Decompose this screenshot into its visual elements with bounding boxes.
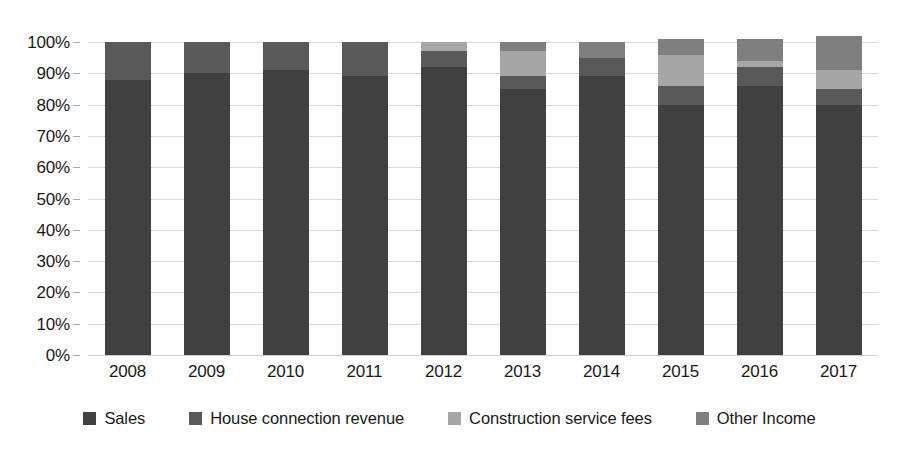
legend-swatch-icon [696,412,709,425]
bar-segment[interactable] [342,76,388,355]
x-axis-label: 2014 [562,362,641,392]
bar-slot [88,42,167,355]
stacked-bar[interactable] [184,42,230,355]
legend-label: Sales [104,409,145,428]
bar-slot [404,42,483,355]
bar-segment[interactable] [500,51,546,76]
bar-segment[interactable] [737,39,783,61]
stacked-bar[interactable] [816,36,862,355]
bar-group [88,42,878,355]
x-axis-label: 2015 [641,362,720,392]
bar-segment[interactable] [342,42,388,76]
bar-segment[interactable] [421,42,467,51]
y-axis-label: 20% [37,284,70,301]
legend-swatch-icon [448,412,461,425]
gridline [88,355,878,356]
bar-segment[interactable] [421,67,467,355]
stacked-bar[interactable] [105,42,151,355]
bar-segment[interactable] [184,73,230,355]
y-axis-label: 30% [37,253,70,270]
x-axis-label: 2012 [404,362,483,392]
bar-segment[interactable] [500,76,546,89]
plot-area [88,42,878,355]
y-axis-tick [73,261,80,262]
bar-segment[interactable] [658,39,704,55]
bar-slot [483,42,562,355]
bar-segment[interactable] [816,105,862,355]
bar-segment[interactable] [184,42,230,73]
bar-segment[interactable] [500,42,546,51]
bar-segment[interactable] [105,42,151,80]
y-axis-tick [73,355,80,356]
stacked-bar-chart: 0%10%20%30%40%50%60%70%80%90%100% 200820… [0,0,899,459]
x-axis-label: 2016 [720,362,799,392]
stacked-bar[interactable] [500,42,546,355]
bar-segment[interactable] [500,89,546,355]
x-axis-label: 2013 [483,362,562,392]
bar-slot [167,42,246,355]
y-axis-tick [73,167,80,168]
bar-segment[interactable] [816,36,862,70]
bar-segment[interactable] [263,70,309,355]
y-axis-label: 80% [37,96,70,113]
bar-slot [799,42,878,355]
y-axis-tick [73,230,80,231]
y-axis-tick [73,73,80,74]
y-axis-tick [73,136,80,137]
stacked-bar[interactable] [737,39,783,355]
y-axis-label: 70% [37,127,70,144]
bar-segment[interactable] [658,105,704,355]
bar-slot [720,42,799,355]
y-axis-tick [73,105,80,106]
bar-segment[interactable] [658,86,704,105]
bar-slot [325,42,404,355]
legend-label: Other Income [717,409,816,428]
legend-label: Construction service fees [469,409,652,428]
x-axis: 2008200920102011201220132014201520162017 [88,362,878,392]
legend-swatch-icon [83,412,96,425]
bar-segment[interactable] [737,86,783,355]
y-axis-tick [73,324,80,325]
y-axis-tick [73,292,80,293]
bar-slot [641,42,720,355]
legend-item[interactable]: Construction service fees [448,409,652,428]
y-axis: 0%10%20%30%40%50%60%70%80%90%100% [0,42,80,355]
y-axis-label: 40% [37,221,70,238]
legend-swatch-icon [189,412,202,425]
legend-item[interactable]: Sales [83,409,145,428]
stacked-bar[interactable] [263,42,309,355]
legend-label: House connection revenue [210,409,404,428]
bar-segment[interactable] [658,55,704,86]
chart-legend: SalesHouse connection revenueConstructio… [0,404,899,432]
y-axis-tick [73,199,80,200]
bar-segment[interactable] [816,70,862,89]
x-axis-label: 2009 [167,362,246,392]
bar-segment[interactable] [421,51,467,67]
y-axis-label: 100% [27,34,70,51]
bar-segment[interactable] [816,89,862,105]
bar-segment[interactable] [579,42,625,58]
bar-slot [246,42,325,355]
y-axis-label: 10% [37,315,70,332]
y-axis-label: 60% [37,159,70,176]
bar-segment[interactable] [263,42,309,70]
x-axis-label: 2017 [799,362,878,392]
stacked-bar[interactable] [421,42,467,355]
y-axis-tick [73,42,80,43]
bar-segment[interactable] [105,80,151,355]
bar-segment[interactable] [579,76,625,355]
x-axis-label: 2011 [325,362,404,392]
stacked-bar[interactable] [579,42,625,355]
stacked-bar[interactable] [342,42,388,355]
y-axis-label: 0% [46,347,70,364]
x-axis-label: 2008 [88,362,167,392]
bar-segment[interactable] [737,67,783,86]
legend-item[interactable]: Other Income [696,409,816,428]
bar-slot [562,42,641,355]
legend-item[interactable]: House connection revenue [189,409,404,428]
y-axis-label: 50% [37,190,70,207]
stacked-bar[interactable] [658,39,704,355]
x-axis-label: 2010 [246,362,325,392]
bar-segment[interactable] [579,58,625,77]
y-axis-label: 90% [37,65,70,82]
